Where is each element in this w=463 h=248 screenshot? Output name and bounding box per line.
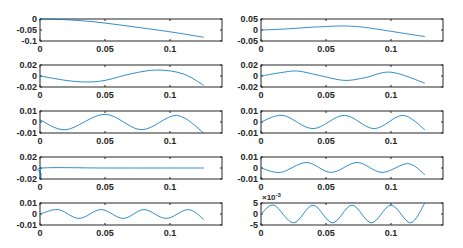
y-tick-label: -0.05: [16, 25, 37, 35]
y-exponent-label: ×10-3: [262, 192, 282, 202]
subplot-8: 00.050.10.010-0.01: [237, 152, 443, 192]
x-tick-label: 0.1: [385, 136, 398, 146]
y-tick-label: 0.05: [240, 14, 258, 24]
subplot-10: 00.050.150-5×10-3: [250, 192, 443, 238]
x-tick-label: 0.05: [317, 90, 335, 100]
axes-box: [261, 19, 443, 41]
subplot-7: 00.050.10.020-0.02: [16, 152, 222, 192]
y-tick-label: 0.01: [240, 106, 258, 116]
x-tick-label: 0.1: [164, 228, 177, 238]
x-tick-label: 0: [258, 182, 263, 192]
x-tick-label: 0.1: [164, 136, 177, 146]
y-tick-label: -0.02: [237, 82, 258, 92]
y-tick-label: 0: [253, 71, 258, 81]
x-tick-label: 0.1: [385, 182, 398, 192]
y-tick-label: 0: [32, 71, 37, 81]
x-tick-label: 0: [37, 90, 42, 100]
axes-box: [261, 157, 443, 179]
x-tick-label: 0.05: [317, 228, 335, 238]
x-tick-label: 0.05: [317, 44, 335, 54]
subplot-5: 00.050.10.010-0.01: [16, 106, 222, 146]
figure: 00.050.10-0.05-0.100.050.10.050-0.0500.0…: [0, 0, 463, 248]
x-tick-label: 0.05: [96, 182, 114, 192]
y-tick-label: -0.1: [21, 36, 37, 46]
axes-box: [261, 65, 443, 87]
y-tick-label: 0.01: [19, 198, 37, 208]
x-tick-label: 0.05: [96, 90, 114, 100]
subplot-6: 00.050.10.010-0.01: [237, 106, 443, 146]
y-tick-label: -0.01: [16, 128, 37, 138]
x-tick-label: 0.05: [96, 136, 114, 146]
x-tick-label: 0.05: [96, 44, 114, 54]
y-tick-label: -0.01: [237, 174, 258, 184]
y-tick-label: 0: [253, 25, 258, 35]
axes-box: [261, 203, 443, 225]
y-tick-label: 0: [253, 209, 258, 219]
y-tick-label: 0.01: [240, 152, 258, 162]
y-tick-label: 0.02: [19, 152, 37, 162]
y-tick-label: 0.02: [19, 60, 37, 70]
x-tick-label: 0.1: [164, 90, 177, 100]
y-tick-label: -0.05: [237, 36, 258, 46]
x-tick-label: 0.05: [317, 182, 335, 192]
y-tick-label: -0.02: [16, 174, 37, 184]
x-tick-label: 0.1: [385, 44, 398, 54]
y-tick-label: 0.02: [240, 60, 258, 70]
x-tick-label: 0: [258, 44, 263, 54]
subplot-2: 00.050.10.050-0.05: [237, 14, 443, 54]
x-tick-label: 0.05: [96, 228, 114, 238]
x-tick-label: 0.05: [317, 136, 335, 146]
x-tick-label: 0.1: [385, 90, 398, 100]
x-tick-label: 0: [258, 228, 263, 238]
subplot-4: 00.050.10.020-0.02: [237, 60, 443, 100]
x-tick-label: 0: [258, 136, 263, 146]
y-tick-label: 0: [32, 14, 37, 24]
y-tick-label: 0: [32, 163, 37, 173]
y-tick-label: 0: [32, 117, 37, 127]
y-tick-label: 0: [253, 163, 258, 173]
y-tick-label: 0: [253, 117, 258, 127]
y-tick-label: 0: [32, 209, 37, 219]
x-tick-label: 0.1: [164, 44, 177, 54]
subplot-9: 00.050.10.010-0.01: [16, 198, 222, 238]
x-tick-label: 0.1: [164, 182, 177, 192]
x-tick-label: 0: [37, 182, 42, 192]
y-tick-label: 0.01: [19, 106, 37, 116]
y-tick-label: -0.01: [16, 220, 37, 230]
y-tick-label: -0.01: [237, 128, 258, 138]
axes-box: [40, 65, 222, 87]
x-tick-label: 0.1: [385, 228, 398, 238]
subplot-1: 00.050.10-0.05-0.1: [16, 14, 222, 54]
x-tick-label: 0: [37, 228, 42, 238]
x-tick-label: 0: [258, 90, 263, 100]
x-tick-label: 0: [37, 136, 42, 146]
x-tick-label: 0: [37, 44, 42, 54]
axes-box: [40, 19, 222, 41]
y-tick-label: 5: [253, 198, 258, 208]
subplot-3: 00.050.10.020-0.02: [16, 60, 222, 100]
y-tick-label: -5: [250, 220, 258, 230]
y-tick-label: -0.02: [16, 82, 37, 92]
